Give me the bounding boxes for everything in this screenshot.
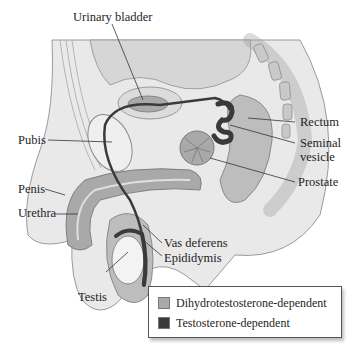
dht-swatch-icon [158,297,170,309]
label-prostate: Prostate [298,176,338,189]
legend: Dihydrotestosterone-dependent Testostero… [148,286,342,338]
label-testis: Testis [78,291,107,304]
label-epididymis: Epididymis [164,252,222,265]
legend-label-dht: Dihydrotestosterone-dependent [176,297,327,309]
testis-shape [112,236,144,284]
label-seminal-vesicle-line2: vesicle [300,151,335,164]
label-pubis: Pubis [18,134,46,147]
testosterone-swatch-icon [158,317,170,329]
label-penis: Penis [18,183,45,196]
label-urethra: Urethra [18,207,56,220]
legend-item-dht: Dihydrotestosterone-dependent [158,297,327,309]
label-seminal-vesicle-line1: Seminal [300,137,341,150]
diagram-root: Urinary bladder Pubis Penis Urethra Rect… [0,0,360,358]
legend-item-testosterone: Testosterone-dependent [158,317,290,329]
label-urinary-bladder: Urinary bladder [73,11,152,24]
legend-label-testosterone: Testosterone-dependent [176,317,290,329]
label-vas-deferens: Vas deferens [164,237,228,250]
label-rectum: Rectum [300,116,339,129]
